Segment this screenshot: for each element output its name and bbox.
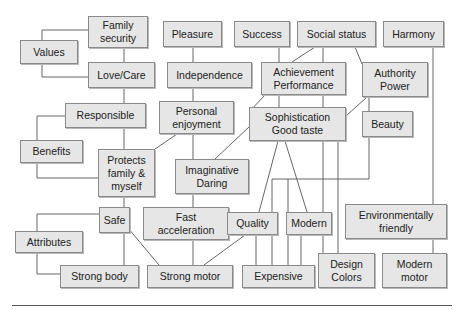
level-label-values: Values: [20, 40, 78, 64]
node-design-colors: Design Colors: [318, 253, 375, 288]
node-social-status: Social status: [297, 21, 376, 47]
node-modern-motor: Modern motor: [382, 253, 447, 288]
bottom-divider: [12, 305, 452, 306]
node-imaginative-daring: Imaginative Daring: [175, 159, 249, 194]
node-authority-power: Authority Power: [362, 62, 428, 97]
node-strong-body: Strong body: [60, 265, 139, 288]
node-independence: Independence: [167, 62, 252, 88]
node-achievement-performance: Achievement Performance: [261, 62, 346, 95]
node-responsible: Responsible: [65, 103, 146, 128]
node-quality: Quality: [227, 212, 278, 235]
node-success: Success: [234, 21, 290, 47]
node-modern: Modern: [286, 212, 332, 235]
node-fast-acceleration: Fast acceleration: [143, 207, 229, 240]
node-harmony: Harmony: [383, 21, 444, 47]
node-strong-motor: Strong motor: [147, 265, 233, 288]
node-personal-enjoyment: Personal enjoyment: [159, 101, 234, 134]
level-label-attributes: Attributes: [15, 231, 83, 253]
node-family-security: Family security: [88, 16, 148, 48]
node-pleasure: Pleasure: [163, 21, 222, 47]
level-label-benefits: Benefits: [20, 140, 83, 163]
means-end-diagram: Values Benefits Attributes Family securi…: [0, 0, 461, 310]
node-protects-family-myself: Protects family & myself: [98, 149, 155, 197]
node-love-care: Love/Care: [88, 62, 155, 88]
node-safe: Safe: [99, 207, 130, 233]
node-expensive: Expensive: [242, 265, 315, 288]
node-beauty: Beauty: [362, 111, 413, 137]
node-environmentally-friendly: Environmentally friendly: [345, 204, 447, 239]
node-sophistication-good-taste: Sophistication Good taste: [249, 107, 346, 141]
